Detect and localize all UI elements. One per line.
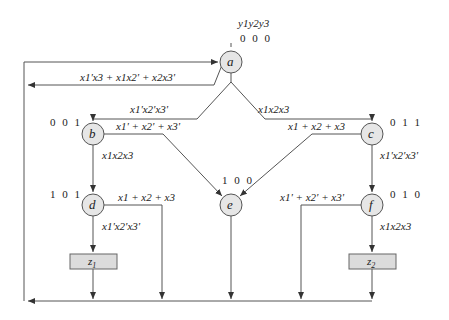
label-c-to-e: x1 + x2 + x3 <box>287 120 345 132</box>
edge-return-to-a <box>24 62 218 301</box>
label-a-return: x1'x3 + x1x2' + x2x3' <box>79 71 176 83</box>
state-d-label: d <box>89 197 96 212</box>
state-b-code: 0 0 1 <box>50 116 82 128</box>
state-c-label: c <box>368 126 374 141</box>
state-a-label: a <box>227 54 234 69</box>
outputs-header: y1y2y3 <box>237 17 270 29</box>
state-d-code: 1 0 1 <box>50 188 82 200</box>
label-b-to-e: x1' + x2' + x3' <box>115 120 181 132</box>
state-b-label: b <box>89 126 96 141</box>
state-a-code: 0 0 0 <box>240 32 272 44</box>
label-b-to-d: x1x2x3 <box>101 149 134 161</box>
label-f-exit: x1' + x2' + x3' <box>279 191 345 203</box>
label-f-to-z2: x1x2x3 <box>379 220 412 232</box>
label-c-to-f: x1'x2'x3' <box>379 149 419 161</box>
label-d-exit: x1 + x2 + x3 <box>117 191 175 203</box>
state-f-code: 0 1 0 <box>390 188 422 200</box>
state-diagram: a b c d e f z1 z2 y1y2y3 0 0 0 0 0 1 0 1… <box>0 0 449 320</box>
edge-b-to-e <box>104 134 222 196</box>
state-e-code: 1 0 0 <box>222 174 254 186</box>
state-c-code: 0 1 1 <box>390 116 422 128</box>
edge-c-to-e <box>240 134 361 196</box>
label-a-to-b: x1'x2'x3' <box>129 103 169 115</box>
state-e-label: e <box>227 197 233 212</box>
edge-f-exit <box>301 205 361 299</box>
label-d-to-z1: x1'x2'x3' <box>101 220 141 232</box>
edge-a-to-c <box>231 82 372 121</box>
label-a-to-c: x1x2x3 <box>257 103 290 115</box>
